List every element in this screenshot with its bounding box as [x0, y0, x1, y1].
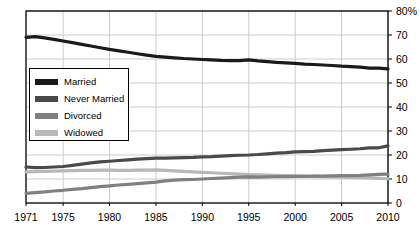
y-axis-tick-label: 70 [396, 30, 408, 41]
y-axis-tick-label: 30 [396, 126, 408, 137]
x-axis-tick-label: 1975 [43, 212, 83, 223]
legend-item: Widowed [35, 126, 103, 140]
legend-item-label: Never Married [64, 94, 124, 104]
legend-swatch-icon [35, 79, 58, 85]
legend-item-label: Divorced [64, 111, 102, 121]
line-chart: MarriedNever MarriedDivorcedWidowed 0102… [0, 0, 420, 233]
legend-item-label: Widowed [64, 128, 103, 138]
y-axis-tick-label: 10 [396, 174, 408, 185]
series-line-never-married [26, 146, 388, 168]
y-axis-tick-label: 60 [396, 54, 408, 65]
x-axis-tick-label: 2010 [368, 212, 408, 223]
y-axis-tick-label: 20 [396, 150, 408, 161]
x-axis-tick-label: 1985 [136, 212, 176, 223]
series-line-divorced [26, 174, 388, 193]
series-line-married [26, 37, 388, 69]
legend-swatch-icon [35, 96, 58, 102]
legend-item: Never Married [35, 92, 124, 106]
legend-item: Divorced [35, 109, 102, 123]
x-axis-tick-label: 2000 [275, 212, 315, 223]
y-axis-tick-label: 50 [396, 78, 408, 89]
y-axis-tick-label: 0 [396, 198, 402, 209]
legend-item-label: Married [64, 77, 96, 87]
y-axis-tick-label: 40 [396, 102, 408, 113]
x-axis-tick-label: 1990 [182, 212, 222, 223]
x-axis-tick-label: 1995 [229, 212, 269, 223]
y-axis-tick-label: 80% [396, 6, 417, 17]
x-axis-tick-label: 1971 [6, 212, 46, 223]
legend-item: Married [35, 75, 96, 89]
legend-swatch-icon [35, 130, 58, 136]
chart-legend: MarriedNever MarriedDivorcedWidowed [29, 68, 129, 141]
x-axis-tick-label: 2005 [322, 212, 362, 223]
legend-swatch-icon [35, 113, 58, 119]
x-axis-tick-label: 1980 [90, 212, 130, 223]
